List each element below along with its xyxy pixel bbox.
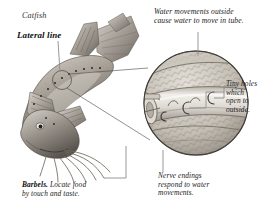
caudal-fin bbox=[96, 13, 139, 62]
figure-canvas: Catfish Lateral line Water movements out… bbox=[0, 0, 277, 215]
annotation-barbels: Barbels. Locate food by touch and taste. bbox=[22, 181, 130, 198]
annotation-barbels-lead: Barbels. bbox=[22, 180, 48, 189]
label-lateral-line: Lateral line bbox=[17, 30, 61, 41]
leader-barbels bbox=[104, 146, 126, 178]
annotation-nerve-endings: Nerve endings respond to water movements… bbox=[158, 172, 230, 198]
label-catfish: Catfish bbox=[22, 11, 46, 21]
dorsal-fin bbox=[70, 22, 99, 56]
annotation-tiny-holes: Tiny holes which open to outside. bbox=[226, 80, 274, 115]
annotation-water-movements: Water movements outside cause water to m… bbox=[154, 8, 244, 26]
